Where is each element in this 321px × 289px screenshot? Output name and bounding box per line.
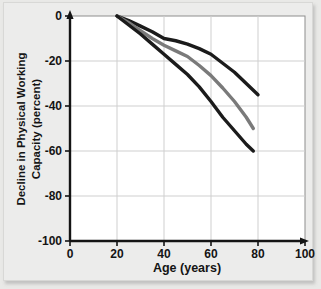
x-tick-label: 100	[295, 247, 315, 261]
chart-canvas: 020406080100 0-20-40-60-80-100 Age (year…	[0, 0, 321, 289]
x-tick-label: 0	[67, 247, 74, 261]
y-tick-label: -60	[45, 144, 63, 158]
y-axis-arrowhead	[66, 10, 73, 19]
x-tick-labels: 020406080100	[67, 247, 316, 261]
x-tick-label: 20	[110, 247, 124, 261]
x-tick-label: 60	[204, 247, 218, 261]
y-tick-label: -100	[38, 234, 62, 248]
y-tick-label: -20	[45, 54, 63, 68]
figure-container: 020406080100 0-20-40-60-80-100 Age (year…	[0, 0, 321, 289]
y-axis-title-line1: Decline in Physical Working	[15, 52, 27, 205]
x-tick-label: 80	[251, 247, 265, 261]
y-tick-label: 0	[55, 9, 62, 23]
y-axis-title-line2: Capacity (percent)	[30, 79, 42, 180]
x-axis-title: Age (years)	[153, 261, 221, 275]
x-tick-label: 40	[157, 247, 171, 261]
y-tick-label: -80	[45, 189, 63, 203]
plot-area-background	[70, 16, 305, 241]
y-tick-label: -40	[45, 99, 63, 113]
